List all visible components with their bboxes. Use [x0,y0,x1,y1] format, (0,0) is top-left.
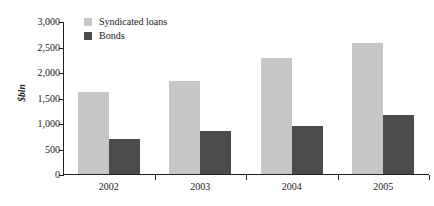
x-axis-tick [338,175,339,180]
bar-syndicated-loans-2002 [78,92,109,174]
legend-item: Bonds [84,30,167,42]
y-axis-tick-labels: 05001,0001,5002,0002,5003,000 [16,0,60,206]
bar-syndicated-loans-2003 [169,81,200,174]
chart-legend: Syndicated loansBonds [84,16,167,44]
y-axis-tick-label: 1,500 [16,94,60,104]
y-axis-tick [59,48,64,49]
bar-syndicated-loans-2004 [261,58,292,174]
x-axis-tick [246,175,247,180]
legend-label: Bonds [99,31,125,41]
y-axis-tick-label: 1,000 [16,119,60,129]
y-axis-tick [59,124,64,125]
y-axis-tick [59,22,64,23]
y-axis-tick [59,150,64,151]
y-axis-tick-label: 0 [16,170,60,180]
legend-swatch-icon [84,32,92,40]
x-axis-tick-labels: 2002200320042005 [63,181,429,201]
x-axis-tick-label: 2002 [63,181,155,192]
x-axis-tick-label: 2005 [338,181,430,192]
plot-area [63,22,429,175]
bar-bonds-2003 [200,131,231,174]
y-axis-tick-label: 2,500 [16,43,60,53]
y-axis-tick-label: 3,000 [16,17,60,27]
x-axis-tick-label: 2003 [155,181,247,192]
x-axis-tick [155,175,156,180]
bar-chart: $bln 05001,0001,5002,0002,5003,000 20022… [0,0,434,206]
legend-item: Syndicated loans [84,16,167,28]
y-axis-tick-label: 2,000 [16,68,60,78]
y-axis-tick [59,175,64,176]
y-axis-tick [59,73,64,74]
bar-bonds-2002 [109,139,140,174]
bar-bonds-2005 [383,115,414,174]
bar-bonds-2004 [292,126,323,174]
x-axis-tick-label: 2004 [246,181,338,192]
legend-swatch-icon [84,18,92,26]
x-axis-tick [429,175,430,180]
y-axis-tick [59,99,64,100]
bar-syndicated-loans-2005 [352,43,383,174]
y-axis-tick-label: 500 [16,145,60,155]
legend-label: Syndicated loans [99,17,167,27]
